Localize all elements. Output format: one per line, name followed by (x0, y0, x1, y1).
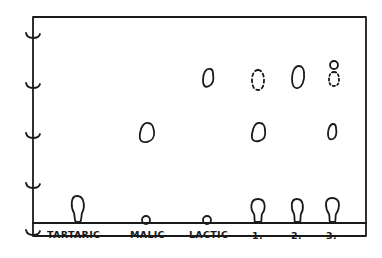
spot-tartaric (72, 196, 84, 222)
label-lane-3: 3. (326, 230, 337, 241)
label-malic: MALIC (130, 229, 165, 240)
spot-lane1-keyhole (251, 199, 264, 222)
spot-lane2-keyhole (292, 199, 303, 222)
spot-lane3-keyhole (326, 198, 339, 222)
spot-lane1-top-dotted (252, 70, 264, 90)
spot-lactic (203, 69, 213, 87)
label-lane-1: 1. (252, 230, 263, 241)
spot-lane3-top-dotted (329, 72, 339, 86)
lane-labels: TARTARIC MALIC LACTIC 1. 2. 3. (47, 229, 337, 241)
label-tartaric: TARTARIC (47, 229, 100, 240)
spot-malic (140, 123, 154, 142)
spot-lane3-mid (328, 124, 336, 139)
label-lactic: LACTIC (189, 229, 228, 240)
spot-lane3-top-circle (330, 61, 338, 69)
spot-lane1-mid (252, 123, 265, 141)
label-lane-2: 2. (291, 230, 302, 241)
spot-lane2-top (292, 66, 304, 88)
chromatogram-diagram: TARTARIC MALIC LACTIC 1. 2. 3. (0, 0, 382, 258)
